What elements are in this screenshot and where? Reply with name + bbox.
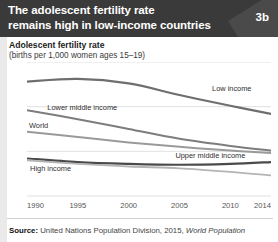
- header-accent-shape: [228, 0, 278, 37]
- series-label: Lower middle income: [47, 103, 117, 112]
- figure-title: The adolescent fertility rate remains hi…: [8, 3, 226, 33]
- source-text: United Nations Population Division, 2015…: [38, 226, 186, 235]
- series-label: High income: [30, 164, 71, 173]
- series-label: Low income: [212, 84, 251, 93]
- series-label: Upper middle income: [175, 151, 245, 160]
- figure-header: The adolescent fertility rate remains hi…: [0, 0, 278, 37]
- chart-axis-title: Adolescent fertility rate: [9, 40, 105, 50]
- x-axis-tick-label: 1990: [27, 201, 44, 210]
- x-axis-tick-label: 2010: [222, 201, 239, 210]
- x-axis-tick-label: 2014: [254, 201, 271, 210]
- x-axis-tick-label: 2000: [120, 201, 137, 210]
- chart-plot-area: 050100150199019952000200520102014Low inc…: [27, 62, 271, 196]
- figure-card: The adolescent fertility rate remains hi…: [0, 0, 278, 242]
- source-label: Source:: [9, 226, 38, 235]
- line-chart-svg: 050100150199019952000200520102014Low inc…: [27, 62, 271, 232]
- series-label: World: [29, 121, 48, 130]
- source-italic-title: World Population: [186, 226, 245, 235]
- figure-number-badge: 3b: [256, 11, 269, 23]
- x-axis-tick-label: 1995: [69, 201, 86, 210]
- figure-body: Adolescent fertility rate (births per 1,…: [0, 37, 278, 242]
- source-divider: [7, 218, 273, 219]
- x-axis-tick-label: 2005: [171, 201, 188, 210]
- chart-axis-subtitle: (births per 1,000 women ages 15–19): [9, 51, 145, 60]
- source-note: Source: United Nations Population Divisi…: [9, 226, 273, 236]
- left-gutter: [0, 37, 7, 242]
